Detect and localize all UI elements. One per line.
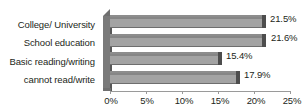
axis-wall bbox=[103, 16, 110, 91]
bar-1-endcap bbox=[262, 34, 266, 47]
bar-chart: College/ University School education Bas… bbox=[0, 0, 308, 110]
category-label-0: College/ University bbox=[0, 19, 95, 30]
x-tick-0 bbox=[110, 91, 111, 94]
x-tick-label-1: 5% bbox=[140, 95, 154, 106]
bar-1-body bbox=[110, 36, 266, 47]
x-tick-label-0: 0% bbox=[104, 95, 118, 106]
bar-0 bbox=[110, 17, 266, 28]
x-tick-2 bbox=[182, 91, 183, 94]
bar-0-body bbox=[110, 17, 266, 28]
x-tick-1 bbox=[146, 91, 147, 94]
bar-2-endcap bbox=[218, 52, 222, 65]
value-label-0: 21.5% bbox=[270, 13, 296, 24]
bar-3 bbox=[110, 73, 240, 84]
x-tick-3 bbox=[218, 91, 219, 94]
category-label-2: Basic reading/writing bbox=[0, 56, 95, 67]
value-label-1: 21.6% bbox=[271, 32, 297, 43]
bar-3-endcap bbox=[236, 71, 240, 84]
bar-2 bbox=[110, 54, 222, 65]
bar-0-endcap bbox=[262, 15, 266, 28]
x-tick-label-3: 15% bbox=[211, 95, 230, 106]
x-tick-5 bbox=[290, 91, 291, 94]
value-label-2: 15.4% bbox=[226, 50, 252, 61]
x-tick-label-2: 10% bbox=[175, 95, 194, 106]
bar-2-body bbox=[110, 54, 222, 65]
category-label-3: cannot read/write bbox=[0, 74, 95, 85]
x-tick-label-5: 25% bbox=[283, 95, 302, 106]
x-axis-line bbox=[110, 91, 291, 92]
bar-3-body bbox=[110, 73, 240, 84]
value-label-3: 17.9% bbox=[244, 69, 270, 80]
category-label-1: School education bbox=[0, 37, 95, 48]
x-tick-label-4: 20% bbox=[247, 95, 266, 106]
bar-1 bbox=[110, 36, 266, 47]
axis-wall-cap bbox=[103, 9, 110, 16]
x-tick-4 bbox=[254, 91, 255, 94]
